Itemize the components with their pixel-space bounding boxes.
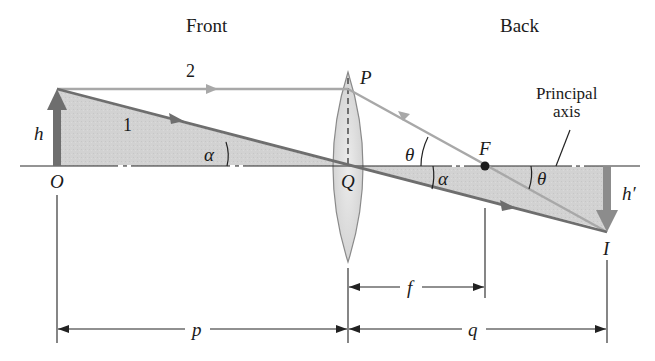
object-distance-label: p <box>192 320 202 339</box>
p-arrow-right <box>336 325 347 333</box>
front-label: Front <box>186 16 227 35</box>
q-arrow-left <box>349 325 360 333</box>
alpha-label-back: α <box>438 169 448 188</box>
principal-axis-annotation: Principal axis <box>536 85 597 121</box>
theta-arc-top <box>421 137 428 166</box>
object-arrow-shaft <box>53 104 61 166</box>
principal-axis-text-line2: axis <box>536 103 597 121</box>
ray-1-label: 1 <box>123 116 132 134</box>
alpha-label-front: α <box>204 145 214 164</box>
f-arrow-right <box>473 283 484 291</box>
back-label: Back <box>500 16 539 35</box>
lens-ray-diagram: Front Back 2 1 h O α P Q θ α F θ Princip… <box>0 0 655 361</box>
principal-axis-text-line1: Principal <box>536 85 597 103</box>
focal-point-label: F <box>479 139 491 158</box>
q-arrow-right <box>595 325 606 333</box>
diagram-canvas <box>0 0 655 361</box>
image-height-label: h′ <box>622 184 636 203</box>
object-height-label: h <box>34 124 44 143</box>
ray-2-arrowhead <box>206 84 218 94</box>
ray-2-label: 2 <box>186 62 195 80</box>
lens-center-label: Q <box>341 172 355 191</box>
principal-axis-leader <box>556 130 570 166</box>
theta-label-top: θ <box>405 145 414 164</box>
theta-label-back: θ <box>537 169 546 188</box>
focal-point-dot <box>481 162 490 171</box>
ray-2-refracted-arrowhead <box>398 111 410 121</box>
p-arrow-left <box>58 325 69 333</box>
lens-top-label: P <box>360 68 372 87</box>
image-arrow-shaft <box>603 166 611 212</box>
f-arrow-left <box>349 283 360 291</box>
image-distance-label: q <box>468 320 478 339</box>
image-point-label: I <box>603 239 609 258</box>
focal-length-label: f <box>407 278 412 297</box>
object-point-label: O <box>50 172 64 191</box>
